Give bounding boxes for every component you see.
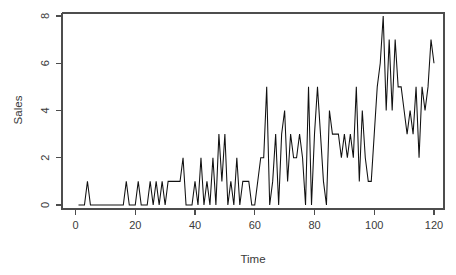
y-axis-title: Sales	[12, 95, 24, 124]
sales-time-series-chart: 02468 020406080100120 Sales Time	[0, 0, 456, 275]
y-tick-label: 8	[39, 13, 51, 19]
x-tick-label: 20	[129, 219, 141, 231]
chart-figure: 02468 020406080100120 Sales Time	[0, 0, 456, 275]
x-tick-label: 0	[72, 219, 78, 231]
x-tick-label: 120	[425, 219, 443, 231]
x-axis-ticks: 020406080100120	[72, 209, 443, 231]
plot-frame	[62, 13, 444, 209]
x-tick-label: 80	[308, 219, 320, 231]
y-tick-label: 6	[39, 60, 51, 66]
x-tick-label: 60	[249, 219, 261, 231]
sales-series-line	[78, 16, 434, 205]
y-tick-label: 2	[39, 155, 51, 161]
x-tick-label: 40	[189, 219, 201, 231]
x-tick-label: 100	[365, 219, 383, 231]
y-tick-label: 0	[39, 202, 51, 208]
y-tick-label: 4	[39, 107, 51, 113]
y-axis-ticks: 02468	[39, 13, 62, 208]
x-axis-title: Time	[240, 253, 265, 265]
series-group	[78, 16, 434, 205]
